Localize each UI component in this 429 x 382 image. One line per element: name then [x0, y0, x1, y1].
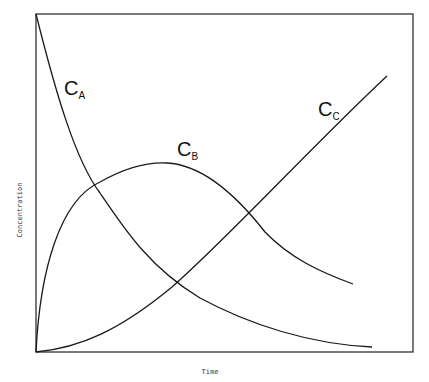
curve-c-a	[36, 14, 372, 347]
label-c-b: CB	[177, 138, 198, 162]
label-c-a: CA	[64, 77, 85, 101]
chart: CA CB CC Time Concentration	[0, 0, 429, 382]
curve-c-b	[36, 163, 353, 352]
y-axis-label: Concentration	[16, 183, 24, 238]
x-axis-label: Time	[202, 368, 219, 376]
label-c-c: CC	[318, 98, 340, 122]
